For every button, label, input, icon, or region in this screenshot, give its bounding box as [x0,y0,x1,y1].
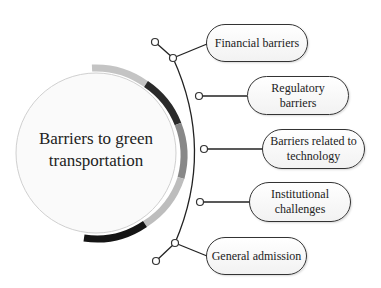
node-regulatory [196,93,203,100]
node-end-top [152,39,159,46]
center-label: Barriers to green transportation [16,128,176,172]
branch-label: Financial barriers [215,36,299,51]
branch-label: Barriers related to technology [269,134,358,164]
branch-label: Institutional challenges [264,187,336,217]
node-end-bottom [153,258,160,265]
node-financial [170,55,177,62]
node-institutional [197,199,204,206]
branch-regulatory-barriers: Regulatory barriers [247,76,349,115]
center-label-line1: Barriers to green [16,128,176,150]
branch-financial-barriers: Financial barriers [206,24,308,62]
ring-segment-mid [178,124,184,178]
branch-general-admission: General admission [206,237,307,275]
node-general [172,240,179,247]
branch-label: General admission [212,249,302,264]
branch-technology-barriers: Barriers related to technology [262,129,365,169]
branch-label: Regulatory barriers [262,81,334,111]
branch-institutional-challenges: Institutional challenges [249,182,351,222]
center-label-line2: transportation [16,150,176,172]
node-technology [201,146,208,153]
